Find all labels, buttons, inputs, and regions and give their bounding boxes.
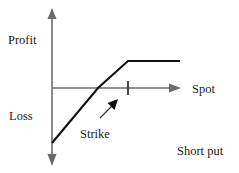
diagram-canvas: Profit Loss Spot Strike Short put xyxy=(0,0,239,173)
strike-annotation-label: Strike xyxy=(80,127,110,141)
x-axis xyxy=(52,84,181,93)
strike-pointer-shaft xyxy=(100,105,113,118)
y-axis-up-arrowhead xyxy=(48,8,57,19)
strike-pointer-arrow xyxy=(100,99,118,118)
y-axis-down-arrowhead xyxy=(48,154,57,166)
profit-axis-label: Profit xyxy=(8,33,37,47)
payoff-diagram: Profit Loss Spot Strike Short put xyxy=(0,0,239,173)
loss-axis-label: Loss xyxy=(9,109,33,123)
short-put-caption: Short put xyxy=(177,144,224,158)
x-axis-right-arrowhead xyxy=(169,84,181,93)
spot-axis-label: Spot xyxy=(192,82,215,96)
